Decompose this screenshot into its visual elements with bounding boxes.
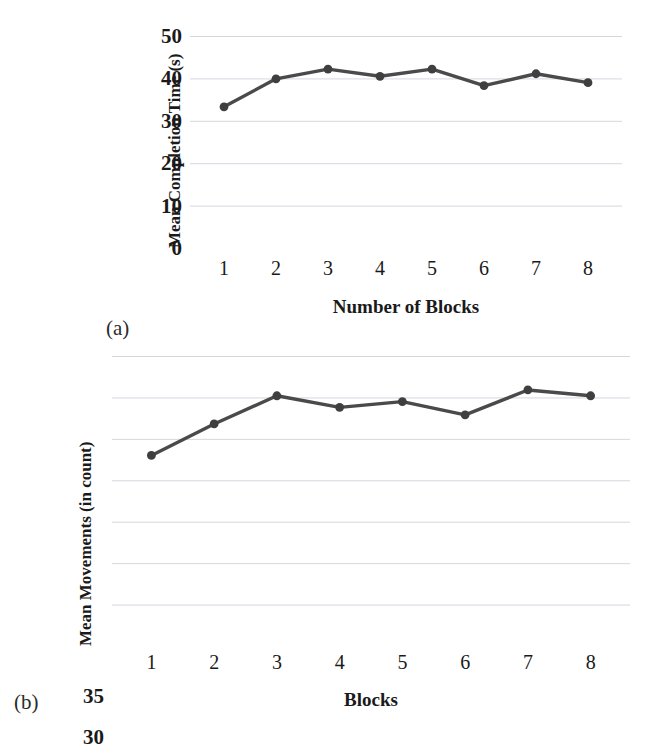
x-axis-tick-label: 4 [360,258,400,278]
y-axis-title-a: Mean Completion Time (s) [165,54,185,248]
x-axis-tick-label: 1 [131,652,171,672]
y-axis-title-b: Mean Movements (in count) [76,442,96,646]
data-point-marker [523,386,532,395]
data-point-marker [584,78,593,87]
x-axis-tick-label: 6 [445,652,485,672]
data-point-marker [461,410,470,419]
data-point-marker [480,81,489,90]
subplot-caption-a: (a) [106,316,129,341]
subplot-caption-b: (b) [14,690,39,715]
x-axis-tick-label: 4 [320,652,360,672]
line-chart-b [112,356,630,646]
data-point-marker [147,451,156,460]
x-axis-tick-label: 2 [194,652,234,672]
data-point-marker [272,391,281,400]
x-axis-title-b: Blocks [112,689,630,711]
x-axis-tick-label: 1 [204,258,244,278]
y-axis-tick-label: 35 [70,686,104,707]
data-point-marker [210,420,219,429]
data-point-marker [398,397,407,406]
line-chart-a [190,36,622,248]
data-point-marker [586,391,595,400]
y-axis-tick-label: 30 [70,727,104,748]
x-axis-tick-label: 5 [412,258,452,278]
data-point-marker [428,65,437,74]
data-point-marker [532,69,541,78]
plot-area-a [190,36,622,248]
data-point-marker [272,74,281,83]
x-axis-title-a: Number of Blocks [190,296,622,318]
plot-area-b [112,356,630,646]
data-point-marker [335,403,344,412]
x-axis-tick-label: 8 [568,258,608,278]
data-point-marker [324,65,333,74]
x-axis-tick-label: 7 [508,652,548,672]
x-axis-tick-label: 6 [464,258,504,278]
y-axis-tick-label: 50 [148,26,182,47]
chart-panel-b: 35302520151050 12345678 Blocks Mean Move… [0,340,665,751]
x-axis-tick-label: 3 [308,258,348,278]
x-axis-tick-label: 2 [256,258,296,278]
data-point-marker [376,72,385,81]
figure-two-panel-line-charts: 50403020100 12345678 Number of Blocks Me… [0,0,665,751]
x-axis-tick-label: 8 [571,652,611,672]
chart-panel-a: 50403020100 12345678 Number of Blocks Me… [0,0,665,340]
x-axis-tick-label: 7 [516,258,556,278]
x-axis-tick-label: 3 [257,652,297,672]
data-point-marker [220,102,229,111]
x-axis-tick-label: 5 [382,652,422,672]
